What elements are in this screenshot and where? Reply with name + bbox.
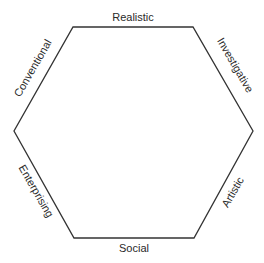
label-conventional: Conventional [11, 37, 54, 99]
label-realistic: Realistic [112, 11, 154, 23]
label-investigative: Investigative [215, 36, 256, 95]
holland-hexagon-diagram: Realistic Investigative Artistic Social … [0, 0, 264, 263]
label-social: Social [119, 242, 149, 254]
label-artistic: Artistic [219, 174, 246, 209]
